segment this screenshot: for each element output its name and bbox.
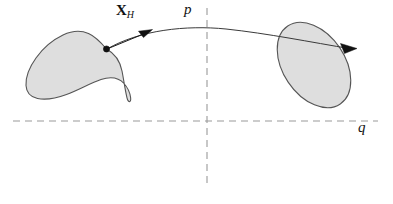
- vector-field-subscript: H: [127, 9, 134, 20]
- vector-field-arrowhead: [139, 30, 153, 38]
- axis-label-q: q: [358, 120, 366, 135]
- base-point-marker: [103, 46, 109, 52]
- vector-field-label: XH: [116, 3, 134, 20]
- phase-space-figure: p q XH: [0, 0, 393, 204]
- axis-label-p: p: [184, 2, 192, 17]
- initial-region-blob: [26, 31, 131, 101]
- figure-canvas: [0, 0, 393, 204]
- evolved-region-blob: [262, 9, 366, 122]
- vector-field-symbol: X: [116, 2, 127, 18]
